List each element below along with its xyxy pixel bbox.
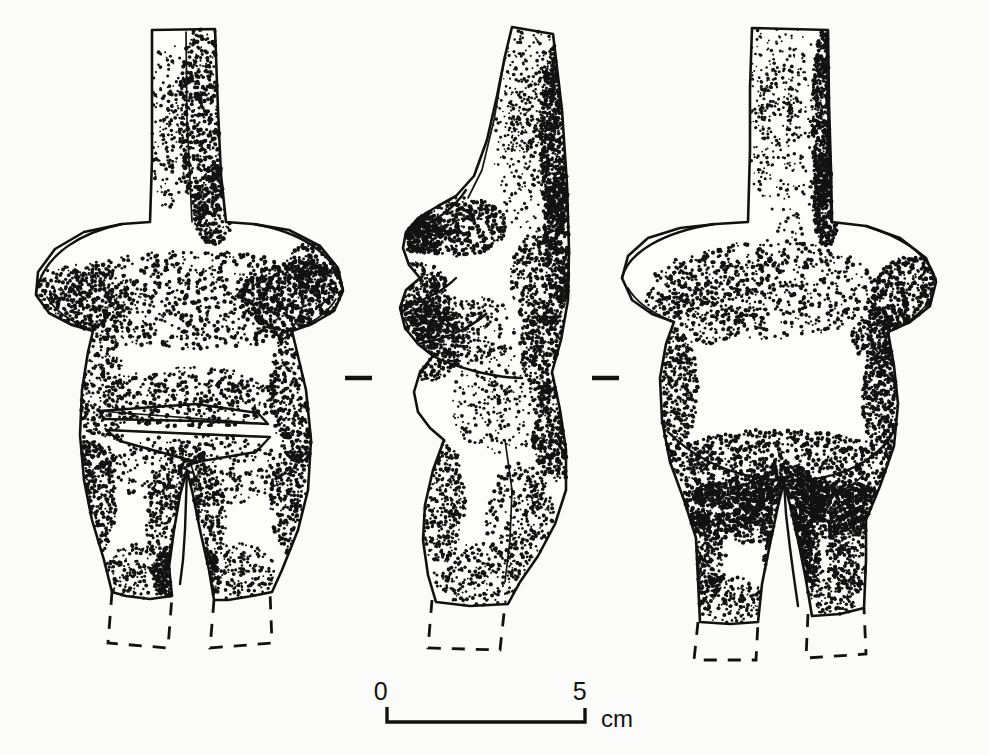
scale-bar-end-label: 5 [573, 677, 587, 705]
scale-bar-unit-label: cm [601, 705, 633, 732]
figurine-plate-drawing: 0 5 cm [0, 0, 989, 755]
figure-plate: 0 5 cm front view side / profile view ba… [0, 0, 989, 755]
scale-bar-start-label: 0 [374, 677, 388, 705]
